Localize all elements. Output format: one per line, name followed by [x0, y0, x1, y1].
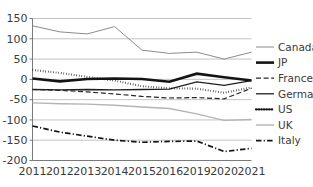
legend-label-canada: Canada [278, 41, 313, 53]
series-line-canada [33, 26, 252, 59]
series-line-uk [33, 103, 252, 120]
y-tick-label: -150 [3, 134, 28, 147]
data-series [33, 26, 252, 152]
y-tick-label: 50 [14, 53, 28, 66]
legend-label-jp: JP [277, 56, 287, 68]
y-tick-label: -100 [3, 114, 28, 127]
x-tick-label: 2021 [238, 165, 266, 178]
legend-label-france: France [278, 72, 313, 84]
legend-label-italy: Italy [278, 134, 301, 146]
x-tick-label: 2020 [210, 165, 238, 178]
series-line-jp [33, 74, 252, 82]
legend-label-germany: Germany [278, 88, 313, 100]
series-line-italy [33, 126, 252, 152]
chart-canvas: 150100500-50-100-150-200 201120122013201… [0, 0, 313, 187]
x-tick-label: 2019 [183, 165, 211, 178]
line-chart: 150100500-50-100-150-200 201120122013201… [0, 0, 313, 187]
y-tick-label: 0 [21, 73, 28, 86]
axis-lines [30, 19, 33, 161]
x-tick-label: 2011 [19, 165, 47, 178]
y-tick-label: 150 [7, 12, 28, 25]
y-tick-label: 100 [7, 33, 28, 46]
x-tick-label: 2013 [73, 165, 101, 178]
x-tick-label: 2016 [155, 165, 183, 178]
x-tick-label: 2012 [46, 165, 74, 178]
y-axis-tick-labels: 150100500-50-100-150-200 [3, 12, 28, 167]
legend-label-uk: UK [278, 119, 294, 131]
x-tick-label: 2014 [101, 165, 129, 178]
x-axis-tick-labels: 201120122013201420152016201920202021 [19, 165, 266, 178]
legend-label-us: US [278, 103, 293, 115]
x-tick-label: 2015 [128, 165, 156, 178]
y-tick-label: -50 [10, 93, 28, 106]
chart-legend: CanadaJPFranceGermanyUSUKItaly [256, 41, 313, 147]
